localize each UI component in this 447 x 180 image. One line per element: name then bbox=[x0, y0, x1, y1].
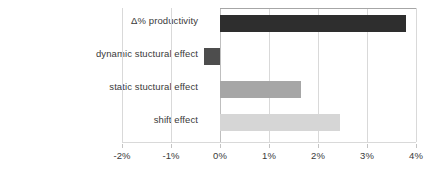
tick-mark-1pct bbox=[269, 144, 270, 148]
tick-label-4pct: 4% bbox=[396, 150, 436, 161]
tick-mark-zero bbox=[220, 144, 221, 148]
gridline-minus-1pct bbox=[171, 8, 172, 142]
plot-top-border bbox=[220, 8, 416, 9]
tick-mark-4pct bbox=[416, 144, 417, 148]
tick-label-3pct: 3% bbox=[347, 150, 387, 161]
tick-label-minus-2pct: -2% bbox=[102, 150, 142, 161]
bar-dynamic-structural bbox=[204, 48, 220, 65]
bar-static-structural bbox=[220, 81, 301, 98]
plot-area bbox=[122, 8, 416, 142]
tick-mark-3pct bbox=[367, 144, 368, 148]
tick-mark-minus-2pct bbox=[122, 144, 123, 148]
gridline-minus-2pct bbox=[122, 8, 123, 142]
tick-label-zero: 0% bbox=[200, 150, 240, 161]
bar-chart: Δ% productivity dynamic stuctural effect… bbox=[0, 0, 447, 180]
tick-label-1pct: 1% bbox=[249, 150, 289, 161]
tick-label-2pct: 2% bbox=[298, 150, 338, 161]
value-axis-baseline bbox=[122, 142, 416, 143]
gridline-4pct bbox=[416, 8, 417, 142]
tick-mark-minus-1pct bbox=[171, 144, 172, 148]
tick-mark-2pct bbox=[318, 144, 319, 148]
value-axis: -2% -1% 0% 1% 2% 3% 4% bbox=[0, 144, 447, 166]
bar-shift-effect bbox=[220, 114, 340, 131]
bar-productivity bbox=[220, 15, 406, 32]
tick-label-minus-1pct: -1% bbox=[151, 150, 191, 161]
